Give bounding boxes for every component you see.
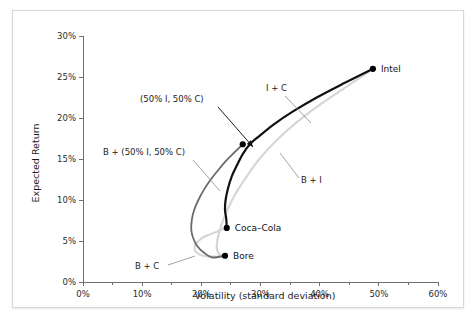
y-tick-label: 30% xyxy=(57,31,76,41)
data-point-intel xyxy=(370,66,376,72)
y-tick-label: 10% xyxy=(57,195,76,205)
annotation-leader-i-plus-c xyxy=(285,96,311,123)
curves-layer xyxy=(191,69,373,258)
data-point-label-coca-cola: Coca–Cola xyxy=(235,223,282,233)
annotation-label-b-plus-fifty-fifty: B + (50% I, 50% C) xyxy=(103,147,185,157)
annotation-leader-b-plus-i xyxy=(280,153,299,178)
data-point-label-intel: Intel xyxy=(381,64,401,74)
y-tick-label: 20% xyxy=(57,113,76,123)
y-tick-label: 15% xyxy=(57,154,76,164)
efficient-frontier-chart: 0%5%10%15%20%25%30%0%10%20%30%40%50%60% … xyxy=(13,11,463,307)
x-tick-label: 10% xyxy=(133,289,152,299)
data-point-coca-cola xyxy=(224,225,230,231)
y-tick-label: 25% xyxy=(57,72,76,82)
figure-frame: 0%5%10%15%20%25%30%0%10%20%30%40%50%60% … xyxy=(12,10,464,308)
data-point-marker xyxy=(240,141,246,147)
x-tick-label: 60% xyxy=(429,289,448,299)
annotation-label-b-plus-i: B + I xyxy=(301,175,322,185)
figure-root: 0%5%10%15%20%25%30%0%10%20%30%40%50%60% … xyxy=(0,0,476,336)
data-point-label-bore: Bore xyxy=(233,251,254,261)
annotation-label-fifty-fifty: (50% I, 50% C) xyxy=(140,94,204,104)
y-axis-title: Expected Return xyxy=(30,124,41,203)
curve-b-c xyxy=(194,228,226,257)
annotation-label-i-plus-c: I + C xyxy=(266,83,287,93)
y-tick-label: 5% xyxy=(63,236,77,246)
curve-i-c xyxy=(225,69,373,228)
x-tick-label: 0% xyxy=(76,289,90,299)
data-point-bore xyxy=(222,253,228,259)
annotation-leader-b-plus-c xyxy=(168,256,195,265)
x-tick-label: 50% xyxy=(369,289,388,299)
points-layer: IntelCoca–ColaBore xyxy=(222,64,401,261)
annotation-leader-fifty-fifty xyxy=(218,107,253,147)
annotation-label-b-plus-c: B + C xyxy=(135,261,159,271)
x-axis-title: Volatility (standard deviation) xyxy=(195,290,336,301)
y-tick-label: 0% xyxy=(63,277,77,287)
